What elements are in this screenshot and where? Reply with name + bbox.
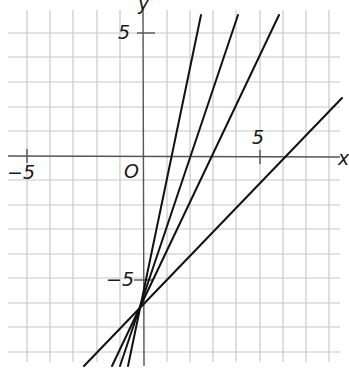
x-axis — [8, 156, 340, 157]
x-tick-label-pos5: 5 — [252, 128, 264, 147]
y-tick-label-neg5: −5 — [106, 270, 134, 289]
grid — [8, 10, 340, 362]
x-axis-label: x — [338, 149, 349, 168]
y-axis-label: y — [138, 0, 149, 13]
x-tick-label-neg5: −5 — [7, 163, 35, 182]
origin-label: O — [124, 162, 139, 181]
y-axis — [143, 8, 144, 366]
y-tick-label-pos5: 5 — [118, 23, 130, 42]
